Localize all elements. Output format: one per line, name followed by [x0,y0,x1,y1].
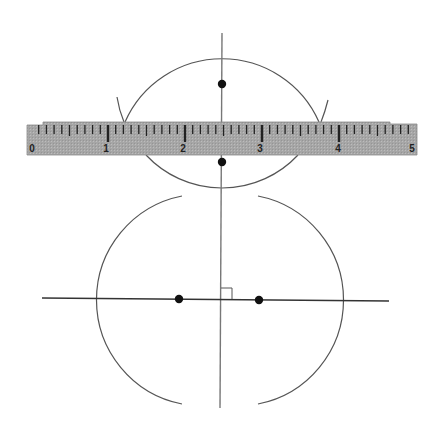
ruler-bottom-point [218,158,226,166]
horizontal-line [42,298,389,301]
ruler-label-3: 3 [257,143,263,154]
ruler-label-2: 2 [180,143,186,154]
ruler[interactable]: 012345 [27,122,417,155]
construction-canvas: 012345 [0,0,432,425]
ruler-label-1: 1 [103,143,109,154]
left-cross-arc [117,97,124,122]
points-layer [175,80,263,304]
ruler-label-0: 0 [29,143,35,154]
right-point [255,296,263,304]
left-lens-arc [96,196,182,404]
ruler-label-4: 4 [335,143,341,154]
right-cross-arc [321,100,328,122]
right-angle-marker [221,288,232,299]
ruler-label-5: 5 [409,143,415,154]
left-point [175,295,183,303]
top-point [218,80,226,88]
vertical-bisector-line [220,33,222,408]
